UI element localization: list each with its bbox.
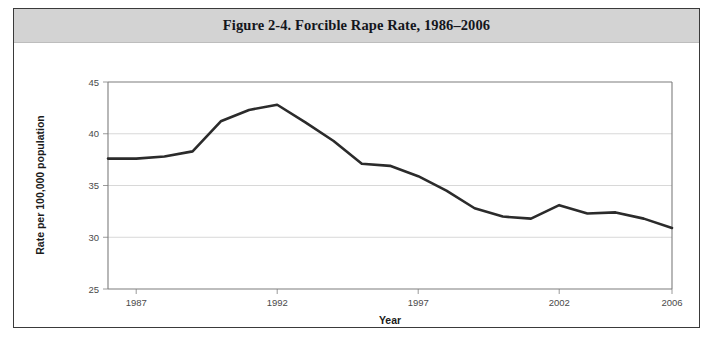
- y-tick-label: 40: [88, 128, 99, 139]
- x-tick-label: 1987: [126, 297, 147, 308]
- x-axis-ticks-group: 19871992199720022006: [126, 289, 683, 308]
- y-tick-label: 45: [88, 77, 99, 88]
- x-axis-title: Year: [379, 314, 401, 326]
- line-chart: 2530354045 19871992199720022006 Rate per…: [14, 43, 699, 328]
- data-series-line: [108, 105, 672, 228]
- gridlines-group: [108, 134, 672, 238]
- figure-title-band: Figure 2-4. Forcible Rape Rate, 1986–200…: [14, 9, 699, 43]
- y-tick-label: 35: [88, 180, 99, 191]
- y-tick-label: 25: [88, 284, 99, 295]
- x-tick-label: 2002: [549, 297, 570, 308]
- chart-plot-area: 2530354045 19871992199720022006 Rate per…: [14, 43, 699, 328]
- y-axis-ticks-group: 2530354045: [88, 77, 108, 295]
- y-axis-title: Rate per 100,000 population: [34, 115, 46, 254]
- y-tick-label: 30: [88, 232, 99, 243]
- x-tick-label: 2006: [661, 297, 682, 308]
- figure-container: Figure 2-4. Forcible Rape Rate, 1986–200…: [13, 8, 700, 328]
- figure-title: Figure 2-4. Forcible Rape Rate, 1986–200…: [223, 17, 490, 34]
- x-tick-label: 1997: [408, 297, 429, 308]
- x-tick-label: 1992: [267, 297, 288, 308]
